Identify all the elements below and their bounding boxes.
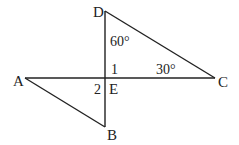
segment-AB [25,78,105,127]
angle-label-2: 2 [94,82,101,97]
point-label-A: A [13,73,24,89]
angle-label-C: 30° [156,62,176,77]
point-label-D: D [93,4,104,20]
point-label-C: C [218,74,228,90]
diagram-svg: D A C B E 60° 30° 1 2 [0,0,239,145]
point-label-B: B [107,127,117,143]
geometry-diagram: D A C B E 60° 30° 1 2 [0,0,239,145]
angle-label-1: 1 [111,62,118,77]
point-label-E: E [109,81,118,97]
angle-label-D: 60° [110,34,130,49]
